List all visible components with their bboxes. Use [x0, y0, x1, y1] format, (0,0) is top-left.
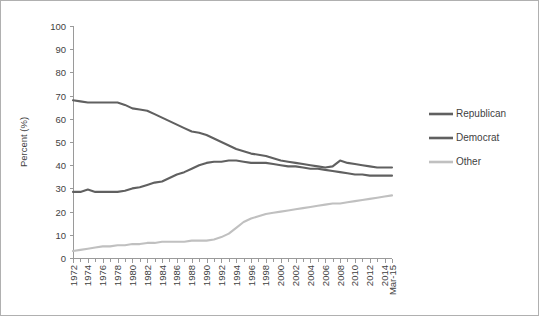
x-tick-label: 2002 — [290, 265, 301, 286]
x-tick-label: 1976 — [97, 265, 108, 286]
line-chart: 0102030405060708090100Percent (%)1972197… — [1, 1, 539, 316]
legend-label-republican: Republican — [456, 108, 506, 119]
legend-label-other: Other — [456, 156, 482, 167]
x-tick-label: 1974 — [82, 265, 93, 286]
legend-label-democrat: Democrat — [456, 132, 500, 143]
x-tick-label: 2010 — [349, 265, 360, 286]
x-tick-label: 2004 — [305, 265, 316, 286]
y-axis-title: Percent (%) — [18, 117, 29, 167]
y-tick-label: 40 — [55, 160, 66, 171]
x-tick-label: 2008 — [335, 265, 346, 286]
x-tick-label: 1980 — [127, 265, 138, 286]
x-tick-label: 1984 — [157, 265, 168, 286]
x-tick-label: 1990 — [201, 265, 212, 286]
y-tick-label: 90 — [55, 44, 66, 55]
x-tick-label: 1972 — [68, 265, 79, 286]
y-tick-label: 50 — [55, 137, 66, 148]
y-tick-label: 80 — [55, 67, 66, 78]
series-line-other — [73, 195, 392, 251]
y-tick-label: 100 — [50, 21, 66, 32]
y-tick-label: 30 — [55, 183, 66, 194]
y-tick-label: 10 — [55, 230, 66, 241]
x-tick-label: Mar-15 — [387, 265, 398, 295]
y-tick-label: 70 — [55, 91, 66, 102]
y-tick-label: 60 — [55, 114, 66, 125]
x-tick-label: 1996 — [246, 265, 257, 286]
series-line-republican — [73, 100, 392, 167]
x-tick-label: 1988 — [186, 265, 197, 286]
chart-figure: 0102030405060708090100Percent (%)1972197… — [0, 0, 539, 316]
series-line-democrat — [73, 161, 392, 192]
x-tick-label: 2012 — [364, 265, 375, 286]
plot-area: 0102030405060708090100Percent (%)1972197… — [18, 21, 506, 295]
y-tick-label: 20 — [55, 207, 66, 218]
x-tick-label: 2000 — [275, 265, 286, 286]
y-tick-label: 0 — [61, 253, 66, 264]
x-tick-label: 1998 — [260, 265, 271, 286]
x-tick-label: 1986 — [171, 265, 182, 286]
x-tick-label: 1992 — [216, 265, 227, 286]
x-tick-label: 1994 — [231, 265, 242, 286]
x-tick-label: 1982 — [142, 265, 153, 286]
x-tick-label: 2006 — [320, 265, 331, 286]
x-tick-label: 1978 — [112, 265, 123, 286]
